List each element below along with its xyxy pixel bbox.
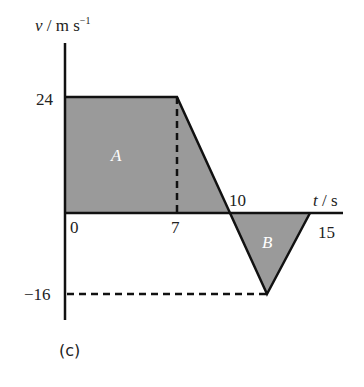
tick-neg16: −16 <box>24 285 51 304</box>
tick-24: 24 <box>36 90 54 109</box>
tick-7: 7 <box>171 218 180 237</box>
region-a-label: A <box>110 146 122 165</box>
tick-0: 0 <box>70 218 79 237</box>
x-axis-label: t / s <box>313 191 338 210</box>
velocity-time-graph: v / m s−1 24 −16 0 7 10 15 t / s A B (c) <box>0 0 364 387</box>
figure-caption: (c) <box>59 341 80 360</box>
region-b-label: B <box>262 233 273 252</box>
y-axis-label: v / m s−1 <box>35 15 91 35</box>
region-b-shade <box>229 213 310 294</box>
tick-10: 10 <box>229 191 246 210</box>
tick-15: 15 <box>318 223 335 242</box>
